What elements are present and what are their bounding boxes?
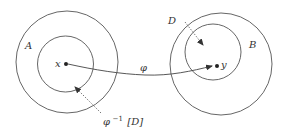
set-a-outer-circle (16, 11, 118, 113)
d-label: D (167, 15, 176, 26)
point-x-label: x (55, 58, 61, 69)
point-x-dot (64, 62, 68, 66)
point-y-dot (215, 64, 219, 68)
d-pointer-arrow (185, 22, 203, 45)
preimage-superscript: −1 (113, 115, 123, 123)
preimage-label: φ −1 [D] (103, 112, 143, 127)
set-a-label: A (24, 40, 32, 51)
preimage-bracket: [D] (127, 116, 143, 127)
preimage-phi: φ (103, 116, 110, 127)
phi-label: φ (140, 62, 147, 73)
point-y-label: y (220, 59, 227, 70)
set-mapping-diagram: A B x y φ D φ −1 [D] (0, 0, 287, 133)
preimage-pointer-arrow (75, 87, 101, 113)
set-b-label: B (248, 39, 256, 50)
